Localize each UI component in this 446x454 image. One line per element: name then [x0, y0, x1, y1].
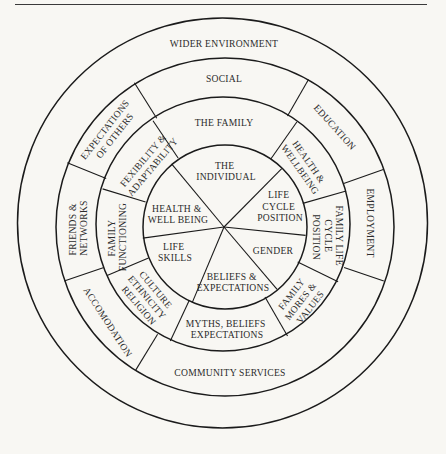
family-divider: [303, 191, 346, 203]
label-family-functioning: FAMILY FUNCTIONING: [106, 203, 129, 271]
label-health-well-being: HEALTH & WELL BEING: [148, 203, 209, 226]
social-divider: [136, 334, 158, 370]
label-the-family: THE FAMILY: [195, 117, 254, 128]
label-social: SOCIAL: [206, 73, 242, 84]
label-the-individual: THE INDIVIDUAL: [196, 160, 256, 183]
ecological-systems-diagram: WIDER ENVIRONMENT SOCIAL EDUCATION EMPLO…: [0, 0, 446, 454]
social-divider: [344, 170, 384, 184]
label-community-services: COMMUNITY SERVICES: [174, 367, 285, 378]
label-gender: GENDER: [253, 245, 294, 256]
label-life-skills: LIFE SKILLS: [158, 241, 192, 264]
label-beliefs-expectations: BELIEFS & EXPECTATIONS: [197, 271, 270, 294]
label-expectations-of-others: EXPECTATIONS OF OTHERS: [78, 95, 142, 168]
social-divider: [288, 80, 309, 116]
social-divider: [67, 163, 106, 179]
label-family-life-cycle-position: FAMILY LIFE CYCLE POSITION: [311, 206, 345, 269]
label-family-mores-values: FAMILY MORES & VALUES: [273, 271, 329, 329]
label-education: EDUCATION: [312, 102, 358, 152]
label-life-cycle-position: LIFE CYCLE POSITION: [257, 189, 303, 223]
social-divider: [134, 83, 156, 119]
label-friends-networks: FRIENDS & NETWORKS: [67, 200, 90, 255]
label-flexibility-adaptability: FEXIBILITY & ADAPTABILITY: [116, 128, 180, 198]
spoke-divider: [143, 227, 224, 238]
spoke-divider: [224, 227, 306, 235]
social-divider: [64, 267, 104, 281]
label-culture-ethnicity-religion: CULTURE ETHNICITY RELIGION: [117, 266, 179, 331]
label-wider-environment: WIDER ENVIRONMENT: [170, 38, 278, 49]
label-myths-beliefs-expectations: MYTHS, BELIEFS EXPECTATIONS: [186, 318, 268, 341]
social-divider: [344, 267, 384, 281]
label-employment: EMPLOYMENT: [365, 188, 376, 257]
